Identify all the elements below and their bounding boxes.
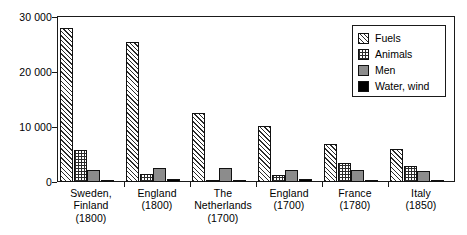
chart-legend: FuelsAnimalsMenWater, wind xyxy=(352,25,446,97)
legend-label: Fuels xyxy=(375,33,401,44)
bar xyxy=(219,168,232,182)
bar xyxy=(87,170,100,182)
bar xyxy=(299,179,312,182)
bar-group xyxy=(258,17,312,182)
legend-swatch-icon xyxy=(358,65,369,76)
bar xyxy=(258,126,271,182)
bar xyxy=(153,168,166,182)
bar xyxy=(285,170,298,182)
bar xyxy=(390,149,403,182)
y-tick-mark xyxy=(52,182,57,183)
bar-group xyxy=(192,17,246,182)
y-tick-label: 10 000 xyxy=(19,122,52,133)
legend-label: Water, wind xyxy=(375,81,429,92)
legend-item[interactable]: Animals xyxy=(358,46,445,62)
legend-swatch-icon xyxy=(358,49,369,60)
bar xyxy=(417,171,430,182)
y-tick-mark xyxy=(52,127,57,128)
bar xyxy=(140,174,153,182)
y-tick-label: 20 000 xyxy=(19,67,52,78)
y-tick-label: 30 000 xyxy=(19,12,52,23)
legend-label: Men xyxy=(375,65,395,76)
x-category-line: Italy xyxy=(378,187,464,199)
bar xyxy=(404,166,417,183)
x-tick-mark xyxy=(322,182,323,187)
bar xyxy=(192,113,205,182)
legend-item[interactable]: Men xyxy=(358,62,445,78)
x-tick-mark xyxy=(190,182,191,187)
x-tick-mark xyxy=(256,182,257,187)
bar-group xyxy=(126,17,180,182)
legend-item[interactable]: Fuels xyxy=(358,30,445,46)
x-tick-mark xyxy=(388,182,389,187)
bar xyxy=(431,180,444,182)
x-category-line: (1700) xyxy=(180,212,266,224)
bar xyxy=(206,180,219,182)
bar-chart: 010 00020 00030 000 Sweden,Finland(1800)… xyxy=(0,0,467,235)
legend-swatch-icon xyxy=(358,33,369,44)
x-axis-labels: Sweden,Finland(1800)England(1800)TheNeth… xyxy=(58,187,454,235)
x-tick-mark xyxy=(124,182,125,187)
bar-group xyxy=(60,17,114,182)
bar xyxy=(324,144,337,183)
x-category-label: Italy(1850) xyxy=(378,187,464,212)
legend-label: Animals xyxy=(375,49,412,60)
y-tick-mark xyxy=(52,72,57,73)
legend-swatch-icon xyxy=(358,81,369,92)
x-category-line: (1800) xyxy=(48,212,134,224)
bar xyxy=(233,180,246,182)
y-axis: 010 00020 00030 000 xyxy=(0,0,52,200)
bar xyxy=(351,170,364,182)
y-tick-mark xyxy=(52,17,57,18)
bar xyxy=(126,42,139,182)
bar xyxy=(101,180,114,182)
bar xyxy=(272,175,285,182)
bar xyxy=(365,180,378,182)
legend-item[interactable]: Water, wind xyxy=(358,78,445,94)
bar xyxy=(74,150,87,182)
x-category-line: (1850) xyxy=(378,199,464,211)
bar xyxy=(338,163,351,182)
bar xyxy=(60,28,73,182)
bar xyxy=(167,179,180,182)
